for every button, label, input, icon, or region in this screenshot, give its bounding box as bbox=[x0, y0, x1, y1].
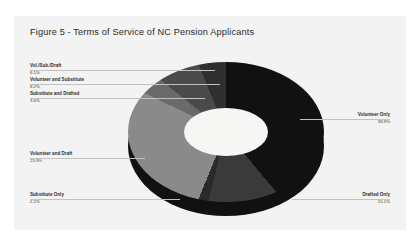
callout-vol-only: Volunteer Only 38.9% bbox=[358, 112, 390, 125]
callout-value: 8.2% bbox=[30, 84, 84, 90]
chart-title: Figure 5 - Terms of Service of NC Pensio… bbox=[30, 27, 254, 37]
callout-label: Drafted Only bbox=[362, 192, 390, 198]
figure-container: Figure 5 - Terms of Service of NC Pensio… bbox=[0, 0, 418, 242]
callout-label: Volunteer and Substitute bbox=[30, 77, 84, 83]
callout-value: 25.9% bbox=[30, 158, 72, 164]
callout-value: 6.1% bbox=[30, 70, 61, 76]
callout-label: Volunteer and Draft bbox=[30, 151, 72, 157]
callout-label: Volunteer Only bbox=[358, 112, 390, 118]
callout-sub-drafted: Substitute and Drafted 3.6% bbox=[30, 91, 79, 104]
callout-vol-sub: Volunteer and Substitute 8.2% bbox=[30, 77, 84, 90]
callout-value: 15.1% bbox=[362, 199, 390, 205]
callout-drafted-only: Drafted Only 15.1% bbox=[362, 192, 390, 205]
callout-sub-only: Substitute Only 2.2% bbox=[30, 192, 64, 205]
donut-chart bbox=[128, 62, 324, 228]
callout-label: Vol./Sub./Draft bbox=[30, 63, 61, 69]
callout-value: 3.6% bbox=[30, 98, 79, 104]
callout-value: 2.2% bbox=[30, 199, 64, 205]
callout-vol-sub-draft: Vol./Sub./Draft 6.1% bbox=[30, 63, 61, 76]
callout-value: 38.9% bbox=[358, 119, 390, 125]
callout-label: Substitute Only bbox=[30, 192, 64, 198]
callout-vol-draft: Volunteer and Draft 25.9% bbox=[30, 151, 72, 164]
callout-label: Substitute and Drafted bbox=[30, 91, 79, 97]
donut-center-hole bbox=[184, 108, 268, 156]
